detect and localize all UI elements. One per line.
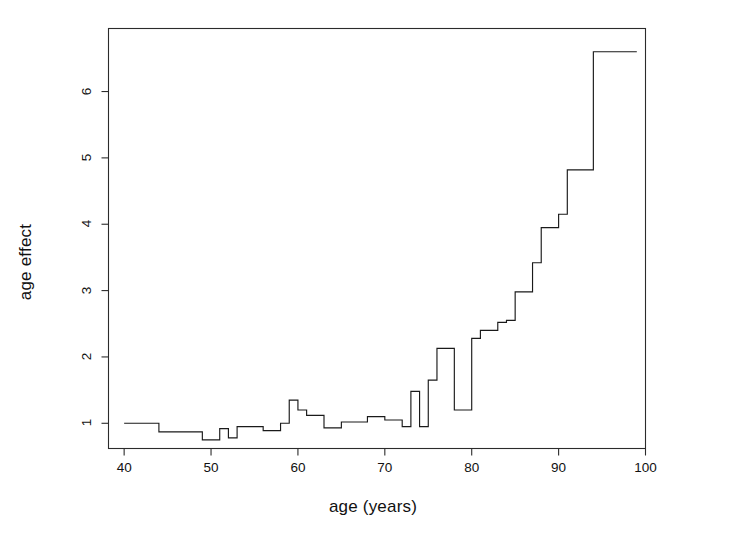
x-axis-label: age (years) (0, 497, 746, 517)
y-tick-label: 3 (78, 281, 93, 299)
chart-figure: age (years) age effect 405060708090100 1… (0, 0, 746, 546)
x-tick-label: 40 (117, 460, 132, 475)
y-tick-label: 5 (78, 148, 93, 166)
x-tick-label: 80 (464, 460, 479, 475)
x-tick-label: 90 (551, 460, 566, 475)
x-tick-label: 70 (377, 460, 392, 475)
plot-box-border (109, 29, 646, 449)
x-tick-label: 100 (634, 460, 657, 475)
y-axis-label: age effect (16, 192, 36, 332)
x-tick-label: 50 (204, 460, 219, 475)
y-tick-label: 4 (78, 215, 93, 233)
step-line-series (124, 52, 637, 440)
y-tick-label: 2 (78, 347, 93, 365)
x-axis-ticks (124, 449, 645, 456)
y-axis-ticks (102, 92, 109, 424)
x-tick-label: 60 (290, 460, 305, 475)
y-tick-label: 1 (78, 414, 93, 432)
y-tick-label: 6 (78, 82, 93, 100)
